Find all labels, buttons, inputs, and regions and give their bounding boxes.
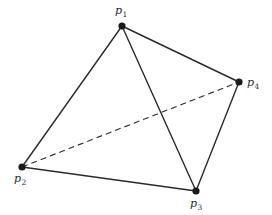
label-subscript-p1: 1 — [123, 10, 128, 19]
vertex-p1 — [118, 22, 125, 29]
label-p1: p1 — [115, 4, 127, 19]
label-p4: p4 — [247, 76, 260, 91]
k4-diagram: p1p2p3p4 — [0, 0, 272, 215]
label-p2: p2 — [14, 172, 27, 187]
edge-p3-p4 — [196, 82, 239, 191]
edge-p1-p2 — [22, 26, 122, 167]
edges-group — [22, 26, 239, 191]
edge-p1-p4 — [122, 26, 239, 82]
label-subscript-p3: 3 — [198, 203, 203, 212]
label-p3: p3 — [190, 197, 203, 212]
edge-p2-p4-dashed — [22, 82, 239, 167]
vertex-p2 — [18, 163, 25, 170]
edge-p1-p3 — [122, 26, 196, 191]
vertex-p4 — [235, 78, 242, 85]
labels-group: p1p2p3p4 — [14, 4, 260, 212]
label-subscript-p4: 4 — [255, 82, 260, 91]
edge-p2-p3 — [22, 167, 196, 191]
label-subscript-p2: 2 — [22, 178, 27, 187]
vertices-group — [18, 22, 242, 194]
vertex-p3 — [192, 187, 199, 194]
